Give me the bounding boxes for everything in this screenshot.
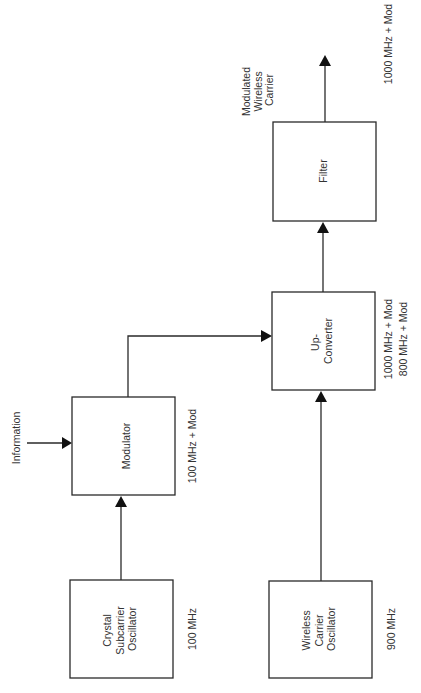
wireless-to-upconverter-arrow-head: [315, 391, 327, 402]
filter-output-arrow-head: [319, 55, 331, 66]
crystal-label-line-3: Oscillator: [126, 607, 138, 651]
output-carrier-label-line-2: Wireless: [252, 71, 264, 111]
upconverter-frequency-label-2: 800 MHz + Mod: [397, 302, 409, 377]
information-input-label: Information: [10, 412, 22, 465]
upconverter-label-line-1: Up-: [309, 333, 321, 350]
svg-text:Wireless Carrier O: Wireless Carrier Oscillator: [300, 607, 337, 651]
upconverter-to-filter-arrow-head: [317, 222, 329, 233]
block-diagram: Crystal Subcarrier Oscillator Modulator …: [0, 0, 421, 693]
upconverter-label-line-2: Converter: [322, 317, 334, 364]
output-carrier-label-line-3: Carrier: [263, 73, 275, 106]
filter-output-frequency-label: 1000 MHz + Mod: [382, 4, 394, 84]
crystal-label-line-1: Crystal: [101, 614, 113, 647]
filter-label: Filter: [317, 159, 329, 183]
wireless-label-line-2: Carrier: [313, 614, 325, 647]
modulator-frequency-label: 100 MHz + Mod: [186, 409, 198, 484]
crystal-label-line-2: Subcarrier: [114, 606, 126, 655]
block-filter: Filter: [273, 122, 376, 221]
block-up-converter: Up- Converter: [272, 292, 375, 390]
crystal-to-modulator-arrow-head: [115, 496, 127, 507]
wireless-frequency-label: 900 MHz: [385, 608, 397, 650]
block-modulator: Modulator: [72, 397, 175, 495]
modulator-to-upconverter-arrow-head: [261, 330, 272, 342]
wireless-label-line-1: Wireless: [300, 610, 312, 650]
wireless-label-line-3: Oscillator: [325, 607, 337, 651]
output-carrier-label-line-1: Modulated: [240, 67, 252, 116]
modulator-to-upconverter-line: [128, 336, 263, 397]
information-arrow-head: [62, 437, 72, 449]
block-wireless-carrier-oscillator: Wireless Carrier Oscillator: [269, 581, 372, 678]
upconverter-frequency-label-1: 1000 MHz + Mod: [382, 299, 394, 379]
svg-text:Filter: Filter: [317, 159, 329, 183]
crystal-frequency-label: 100 MHz: [186, 608, 198, 650]
block-crystal-subcarrier-oscillator: Crystal Subcarrier Oscillator: [70, 580, 173, 678]
output-carrier-label: Modulated Wireless Carrier: [240, 64, 275, 116]
modulator-label: Modulator: [120, 422, 132, 469]
svg-text:Modulator: Modulator: [120, 422, 132, 469]
